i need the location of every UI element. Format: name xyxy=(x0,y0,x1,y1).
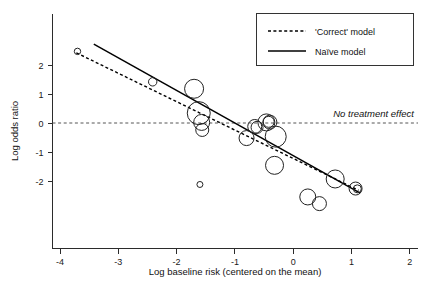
no-treatment-effect-label: No treatment effect xyxy=(333,108,414,119)
x-tick-label: -4 xyxy=(56,257,64,267)
x-tick-label: -3 xyxy=(114,257,122,267)
legend-label-correct-model: 'Correct' model xyxy=(315,27,375,37)
y-tick-label: 0 xyxy=(38,119,43,129)
legend-label-naive-model: Naïve model xyxy=(315,47,366,57)
y-axis-title: Log odds ratio xyxy=(9,101,20,161)
y-tick-label: -1 xyxy=(35,148,43,158)
scatter-plot: -4-3-2-1012 210-1-2 No treatment effect … xyxy=(0,0,423,290)
chart-legend: 'Correct' model Naïve model xyxy=(257,14,414,66)
chart-figure: -4-3-2-1012 210-1-2 No treatment effect … xyxy=(0,0,423,290)
y-tick-label: 2 xyxy=(38,61,43,71)
y-tick-label: -2 xyxy=(35,177,43,187)
x-tick-label: -1 xyxy=(231,257,239,267)
x-tick-label: 0 xyxy=(291,257,296,267)
x-axis-title: Log baseline risk (centered on the mean) xyxy=(149,266,322,277)
x-tick-label: 1 xyxy=(349,257,354,267)
x-tick-label: -2 xyxy=(173,257,181,267)
y-tick-label: 1 xyxy=(38,90,43,100)
legend-box xyxy=(257,14,414,66)
x-tick-label: 2 xyxy=(407,257,412,267)
